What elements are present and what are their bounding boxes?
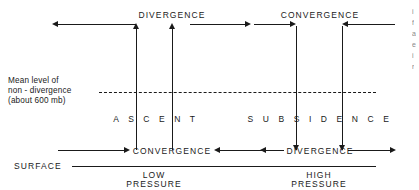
margin-text-fragment-2: f (412, 17, 414, 29)
margin-text-fragment-3: a (412, 28, 416, 40)
margin-text-fragment-1: i (412, 6, 414, 18)
upper-convergence-label: CONVERGENCE (281, 10, 360, 20)
subsidence-label: S U B S I D E N C E (248, 114, 393, 124)
surface-line (72, 166, 376, 167)
upper-outflow-right-arrowhead-icon (245, 21, 251, 27)
mean-level-label-line2: non - divergence (8, 86, 71, 96)
mean-level-label-line1: Mean level of (8, 76, 59, 86)
ascent-arrowhead-right-icon (169, 23, 175, 29)
lower-outflow-left-arrowhead-icon (260, 147, 266, 153)
upper-outflow-left-line (58, 24, 136, 25)
ascent-label: A S C E N T (113, 114, 198, 124)
ascent-arrowhead-left-icon (133, 23, 139, 29)
margin-text-fragment-4: e (412, 39, 416, 51)
low-pressure-label-line2: PRESSURE (126, 179, 182, 189)
lower-outflow-right-line (348, 150, 390, 151)
surface-label: SURFACE (14, 161, 62, 171)
upper-divergence-label: DIVERGENCE (138, 10, 205, 20)
lower-inflow-left-arrowhead-icon (124, 147, 130, 153)
subsidence-column-line-left (296, 26, 297, 150)
ascent-column-line-left (136, 28, 137, 150)
mean-level-label-line3: (about 600 mb) (8, 96, 66, 106)
upper-inflow-right-line (348, 24, 395, 25)
margin-text-fragment-5: i (412, 50, 414, 62)
lower-outflow-left-line (266, 150, 284, 151)
ascent-column-line-right (172, 28, 173, 150)
lower-inflow-right-arrowhead-icon (214, 147, 220, 153)
lower-convergence-label: CONVERGENCE (133, 146, 212, 156)
subsidence-column-line-right (342, 26, 343, 150)
lower-inflow-left-line (58, 150, 124, 151)
mean-level-dashed-line (99, 92, 376, 93)
lower-outflow-right-arrowhead-icon (390, 147, 396, 153)
upper-outflow-right-line (190, 24, 245, 25)
upper-outflow-left-arrowhead-icon (52, 21, 58, 27)
high-pressure-label-line2: PRESSURE (291, 179, 347, 189)
atmospheric-circulation-diagram: DIVERGENCE CONVERGENCE Mean level of non… (0, 0, 419, 190)
upper-inflow-left-line (254, 24, 290, 25)
lower-divergence-label: DIVERGENCE (286, 146, 353, 156)
margin-text-fragment-6: r (412, 61, 414, 73)
